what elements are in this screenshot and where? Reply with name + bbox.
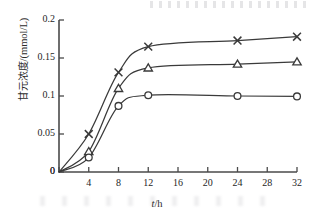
chart-figure: 甘元浓度/(mmol/L) t/h 00.050.10.150.20 48121… — [0, 0, 314, 218]
y-tick-label: 0.15 — [13, 51, 55, 62]
data-series — [59, 92, 300, 172]
data-series — [59, 58, 301, 172]
x-tick-label: 20 — [194, 177, 222, 188]
data-marker-circle — [294, 93, 301, 100]
y-tick-label: 0.2 — [13, 13, 55, 24]
x-axis-title-unit: /h — [154, 198, 162, 209]
series-line — [59, 62, 297, 172]
y-tick-label: 0.1 — [13, 89, 55, 100]
x-tick-label: 28 — [253, 177, 281, 188]
data-series — [59, 33, 301, 172]
x-tick-label: 24 — [224, 177, 252, 188]
data-marker-circle — [234, 93, 241, 100]
x-tick-label: 8 — [105, 177, 133, 188]
x-axis-title: t/h — [0, 198, 314, 209]
series-line — [59, 95, 297, 172]
series-line — [59, 37, 297, 172]
data-marker-circle — [85, 154, 92, 161]
x-tick-label: 4 — [75, 177, 103, 188]
origin-tick-label: 0 — [13, 165, 55, 176]
x-tick-label: 16 — [164, 177, 192, 188]
data-marker-circle — [145, 92, 152, 99]
data-marker-triangle — [114, 84, 122, 91]
data-series-layer — [59, 33, 301, 172]
data-marker-circle — [115, 102, 122, 109]
x-tick-label: 32 — [283, 177, 311, 188]
x-tick-label: 12 — [134, 177, 162, 188]
y-tick-label: 0.05 — [13, 127, 55, 138]
